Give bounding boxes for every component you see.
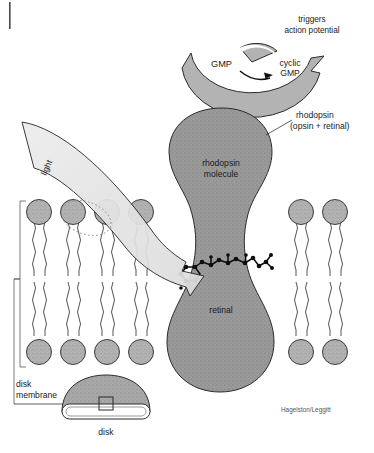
disk-icon — [62, 375, 150, 419]
conversion-arrow-icon — [240, 71, 273, 79]
disk-label: disk — [98, 427, 114, 437]
rhodopsin-molecule-label-2: molecule — [204, 169, 239, 179]
figure-canvas: GMP cyclic GMP triggers action potential — [0, 0, 374, 453]
rhodopsin-molecule-label-1: rhodopsin — [202, 158, 240, 168]
rhodopsin-callout-label-2: (opsin + retinal) — [290, 121, 350, 131]
upper-leaflet-heads — [27, 200, 348, 225]
disk-membrane-label-1: disk — [16, 379, 32, 389]
cyclic-gmp-label: GMP — [280, 68, 300, 78]
triggers-label: triggers — [298, 15, 325, 24]
artist-credit: Hagelston/Leggitt — [281, 406, 331, 414]
bracket-icon — [14, 201, 26, 404]
rhodopsin-callout-label-1: rhodopsin — [296, 110, 334, 120]
disk-membrane-label-2: membrane — [16, 390, 57, 400]
retinal-label: retinal — [209, 305, 232, 315]
rhodopsin-diagram: GMP cyclic GMP triggers action potential — [0, 0, 374, 453]
scan-mark-icon — [9, 2, 11, 29]
action-potential-label: action potential — [284, 26, 339, 35]
gmp-arc-arrow — [182, 43, 324, 117]
gmp-label: GMP — [211, 59, 232, 69]
cyclic-label: cyclic — [279, 58, 301, 68]
rhodopsin-callout-leader — [266, 120, 292, 135]
rhodopsin-molecule-shape — [167, 108, 274, 392]
